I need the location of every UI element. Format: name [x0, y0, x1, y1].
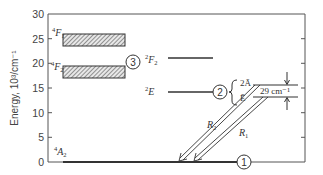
svg-text:10: 10 — [32, 107, 44, 119]
label-4f1: 4F1 — [52, 26, 65, 39]
label-2f2: 2F2 — [145, 53, 158, 66]
splitting-label: 29 cm⁻¹ — [260, 86, 290, 96]
label-2e: 2E — [145, 85, 154, 97]
label-2a-bar: 2Ā — [240, 78, 252, 88]
label-4f2: 4F2 — [51, 60, 64, 73]
svg-text:5: 5 — [38, 131, 44, 143]
svg-text:0: 0 — [38, 156, 44, 168]
brace — [229, 80, 237, 105]
svg-text:15: 15 — [32, 82, 44, 94]
marker-3: 3 — [126, 55, 140, 69]
svg-text:1: 1 — [241, 157, 247, 168]
y-axis-ticks-right — [301, 39, 305, 138]
band-4f2 — [63, 66, 125, 78]
svg-text:30: 30 — [32, 8, 44, 20]
label-r2: R2 — [206, 119, 216, 131]
y-tick-labels: 30 25 20 15 10 5 0 — [32, 8, 44, 168]
y-axis-ticks — [48, 39, 52, 138]
transition-r1 — [194, 97, 268, 161]
energy-level-diagram: 30 25 20 15 10 5 0 Energy, 10³/cm⁻¹ 4F1 … — [0, 0, 323, 175]
svg-text:3: 3 — [130, 57, 136, 68]
label-4a2: 4A2 — [54, 145, 67, 158]
svg-text:25: 25 — [32, 33, 44, 45]
marker-2: 2 — [213, 85, 227, 99]
band-4f1 — [63, 34, 125, 46]
svg-text:2: 2 — [217, 87, 223, 98]
marker-1: 1 — [237, 155, 251, 169]
label-r1: R1 — [238, 127, 248, 139]
svg-text:20: 20 — [32, 57, 44, 69]
y-axis-label: Energy, 10³/cm⁻¹ — [9, 50, 20, 126]
